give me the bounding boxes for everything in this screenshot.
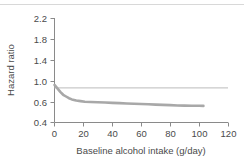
- x-tick-label-0: 0: [52, 128, 57, 139]
- x-tick-label-80: 80: [165, 128, 176, 139]
- y-tick-label-2-2: 2.2: [34, 13, 47, 24]
- x-tick-marks: [55, 123, 229, 127]
- x-tick-label-20: 20: [78, 128, 89, 139]
- x-tick-label-100: 100: [192, 128, 208, 139]
- y-tick-marks: [51, 19, 55, 123]
- x-axis-title: Baseline alcohol intake (g/day): [76, 145, 205, 156]
- x-tick-label-40: 40: [107, 128, 118, 139]
- y-tick-label-1-8: 1.8: [34, 34, 47, 45]
- hazard-ratio-line-chart: 2.2 1.8 1.4 1.0 0.6 0.4 0 20 40 60 80 10…: [0, 0, 244, 164]
- chart-figure: 2.2 1.8 1.4 1.0 0.6 0.4 0 20 40 60 80 10…: [0, 0, 244, 164]
- y-tick-label-0-4: 0.4: [34, 117, 47, 128]
- y-tick-label-1-4: 1.4: [34, 55, 47, 66]
- x-tick-label-120: 120: [221, 128, 237, 139]
- x-tick-label-60: 60: [136, 128, 147, 139]
- y-tick-label-1-0: 1.0: [34, 76, 47, 87]
- y-axis-title: Hazard ratio: [5, 44, 16, 96]
- y-tick-label-0-6: 0.6: [34, 97, 47, 108]
